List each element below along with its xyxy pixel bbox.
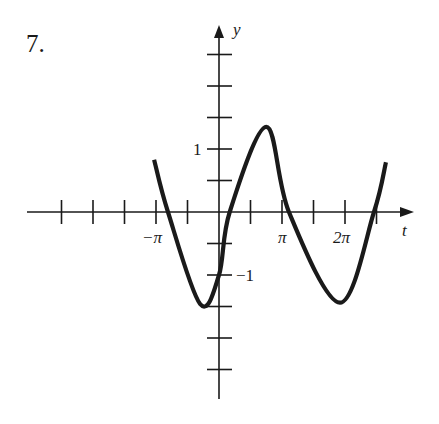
x-tick-label-neg-pi: −π (142, 228, 162, 247)
x-tick-label-2pi: 2π (333, 228, 351, 247)
y-tick-label-1: 1 (193, 140, 202, 159)
y-tick-label-neg-1: −1 (236, 266, 254, 285)
function-curve (154, 127, 386, 307)
x-axis-arrow-icon (400, 207, 414, 217)
y-axis-arrow-icon (214, 25, 224, 38)
x-tick-label-pi: π (278, 228, 287, 247)
y-axis-label: y (231, 20, 241, 39)
graph: 7. y t −π π 2π 1 −1 (0, 0, 439, 424)
x-axis-label: t (402, 221, 408, 240)
problem-number: 7. (26, 30, 45, 57)
